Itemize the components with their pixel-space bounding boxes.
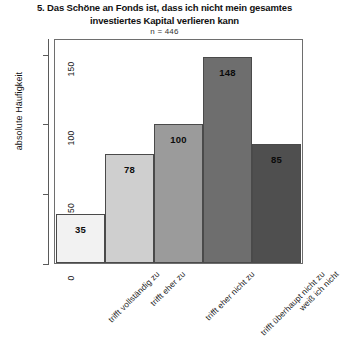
y-tick-150 [43, 55, 49, 56]
x-label-trifft-vollstaendig-zu: trifft vollständig zu [106, 269, 161, 324]
x-label-weiss-ich-nicht: weiß ich nicht [297, 269, 341, 313]
bar-trifft-ueberhaupt-nicht-zu[interactable]: 148 [203, 57, 252, 263]
y-axis-title: absolute Häufigkeit [14, 41, 24, 181]
x-label-trifft-eher-nicht-zu: trifft eher nicht zu [203, 269, 256, 322]
chart-title-line-2: investiertes Kapital verlieren kann [8, 15, 321, 28]
bar-trifft-eher-nicht-zu[interactable]: 100 [154, 124, 203, 264]
bar-trifft-vollstaendig-zu[interactable]: 35 [56, 214, 105, 263]
chart-title-line-1: 5. Das Schöne an Fonds ist, dass ich nic… [8, 2, 321, 15]
y-tick-100 [43, 124, 49, 125]
bar-weiss-ich-nicht[interactable]: 85 [252, 144, 301, 263]
bar-value-label: 35 [75, 225, 86, 235]
y-tick-50 [43, 194, 49, 195]
y-tick-label-0: 0 [66, 263, 76, 293]
bar-value-label: 100 [170, 135, 186, 145]
y-tick-0 [43, 264, 49, 265]
x-label-trifft-ueberhaupt-nicht-zu: trifft überhaupt nicht zu [258, 269, 326, 337]
y-axis-line [48, 39, 49, 265]
bar-value-label: 148 [219, 68, 235, 78]
x-label-trifft-eher-zu: trifft eher zu [148, 269, 187, 308]
bar-trifft-eher-zu[interactable]: 78 [105, 154, 154, 263]
bar-value-label: 85 [271, 155, 282, 165]
bar-series: 35 78 100 148 85 [55, 40, 302, 263]
chart-title: 5. Das Schöne an Fonds ist, dass ich nic… [8, 2, 321, 27]
chart-subtitle-sample-size: n = 446 [8, 27, 321, 36]
bar-value-label: 78 [124, 165, 135, 175]
